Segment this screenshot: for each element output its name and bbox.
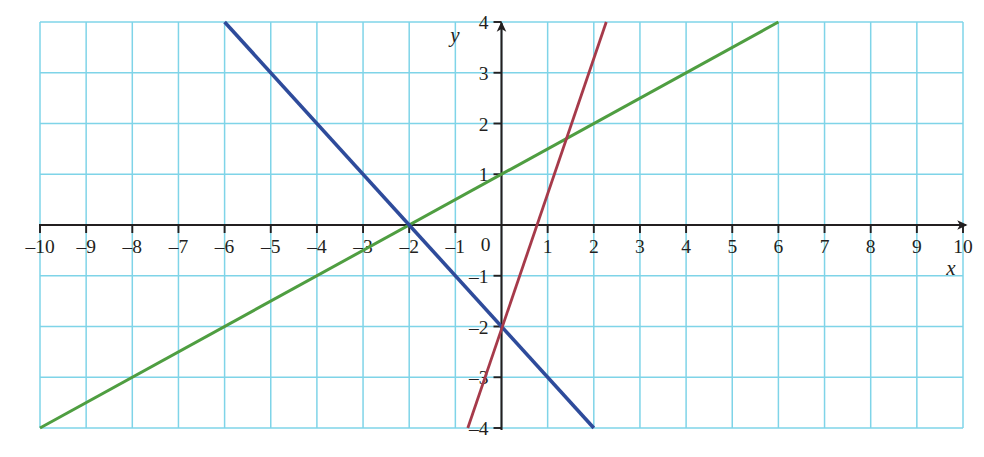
y-tick-label: 4 — [479, 12, 489, 33]
x-tick-label: –1 — [445, 236, 466, 257]
x-tick-label: 9 — [912, 236, 922, 257]
x-tick-label: 1 — [543, 236, 553, 257]
figure-background — [0, 0, 984, 457]
x-tick-label: –9 — [75, 236, 96, 257]
y-tick-label: –2 — [468, 317, 489, 338]
x-tick-label: 10 — [953, 236, 973, 257]
x-tick-label: –8 — [122, 236, 143, 257]
x-tick-label: –5 — [260, 236, 281, 257]
x-axis-label: x — [945, 256, 956, 280]
y-tick-label: 2 — [479, 114, 489, 135]
x-tick-label: 6 — [774, 236, 784, 257]
x-tick-label: 5 — [727, 236, 737, 257]
x-tick-label: 4 — [681, 236, 691, 257]
x-tick-label: –6 — [214, 236, 235, 257]
x-tick-label: 2 — [589, 236, 599, 257]
coordinate-graph-figure: –10–9–8–7–6–5–4–3–2–112345678910–4–3–2–1… — [0, 0, 984, 457]
x-tick-label: –7 — [168, 236, 189, 257]
x-tick-label: –2 — [398, 236, 419, 257]
x-tick-label: –10 — [24, 236, 54, 257]
x-tick-label: 7 — [820, 236, 830, 257]
origin-label: 0 — [481, 234, 491, 255]
y-tick-label: –1 — [468, 266, 489, 287]
y-tick-label: 3 — [479, 63, 489, 84]
x-tick-label: 8 — [866, 236, 876, 257]
x-tick-label: 3 — [635, 236, 645, 257]
y-axis-label: y — [448, 23, 460, 47]
graph-svg: –10–9–8–7–6–5–4–3–2–112345678910–4–3–2–1… — [0, 0, 984, 457]
x-tick-label: –4 — [306, 236, 327, 257]
